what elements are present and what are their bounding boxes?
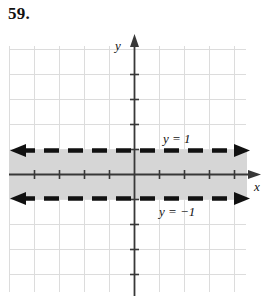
y-axis-label: y	[113, 38, 121, 53]
coordinate-graph: y x y = 1 y = −1	[0, 0, 263, 296]
lower-boundary-label: y = −1	[157, 204, 195, 219]
y-axis-arrowhead	[130, 34, 139, 47]
graph-svg: y x y = 1 y = −1	[0, 0, 263, 296]
upper-boundary-label: y = 1	[161, 131, 191, 146]
x-axis-label: x	[253, 179, 260, 194]
x-axis-arrowhead	[248, 170, 261, 179]
